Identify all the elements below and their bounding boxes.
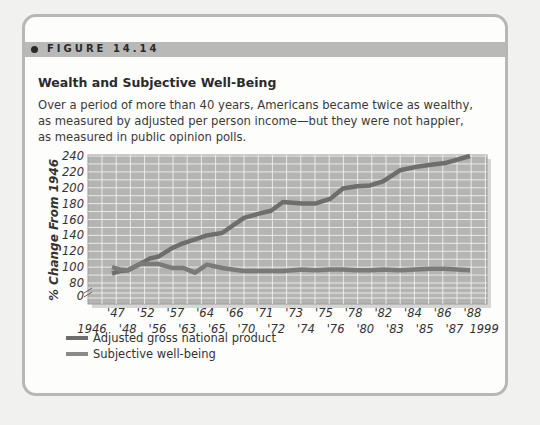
plot-area [88, 155, 487, 304]
y-tick-label: 160 [62, 213, 84, 227]
x-tick-label: '76 [327, 322, 345, 336]
y-tick-label: 100 [62, 260, 84, 274]
x-tick-label: '88 [464, 306, 482, 320]
x-tick-label: '75 [315, 306, 333, 320]
y-tick-label: 220 [62, 165, 84, 179]
y-tick-label: 180 [62, 197, 84, 211]
x-tick-label: '52 [137, 306, 155, 320]
x-tick-label: '66 [226, 306, 244, 320]
legend-swatch-swb [66, 352, 88, 356]
y-axis-label: % Change From 1946 [47, 159, 61, 301]
x-tick-label: '80 [356, 322, 374, 336]
x-tick-label: '82 [374, 306, 392, 320]
x-tick-label: '47 [107, 306, 125, 320]
y-tick-label: 0 [77, 289, 84, 303]
legend-item-swb: Subjective well-being [66, 346, 276, 362]
y-tick-label: 80 [69, 276, 84, 290]
y-tick-label: 240 [62, 149, 84, 163]
y-tick-label: 120 [62, 244, 84, 258]
x-tick-label: '85 [416, 322, 434, 336]
legend-item-gnp: Adjusted gross national product [66, 330, 276, 346]
legend: Adjusted gross national product Subjecti… [66, 330, 276, 362]
x-tick-label: '71 [256, 306, 274, 320]
x-tick-label: '83 [386, 322, 404, 336]
legend-label-gnp: Adjusted gross national product [93, 331, 276, 345]
x-tick-label: '64 [196, 306, 214, 320]
x-tick-label: '73 [285, 306, 303, 320]
x-tick-label: '86 [434, 306, 452, 320]
x-tick-label: '78 [345, 306, 363, 320]
x-tick-label: '74 [297, 322, 315, 336]
y-tick-label: 200 [62, 181, 84, 195]
x-tick-label: '84 [404, 306, 422, 320]
x-tick-label: 1999 [469, 322, 498, 336]
x-tick-label: '87 [446, 322, 464, 336]
x-tick-label: '57 [167, 306, 185, 320]
y-tick-label: 140 [62, 228, 84, 242]
legend-swatch-gnp [66, 336, 88, 340]
legend-label-swb: Subjective well-being [93, 347, 216, 361]
